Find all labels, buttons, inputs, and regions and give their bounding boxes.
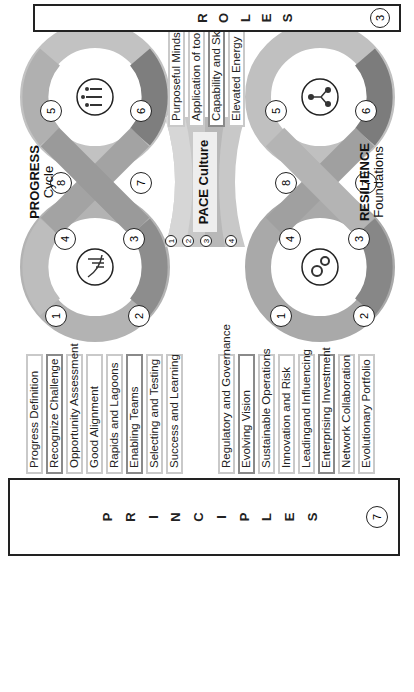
step-badge: 6 xyxy=(355,100,377,122)
principles-count-badge: 7 xyxy=(366,506,388,528)
progress-principles-list: Progress DefinitionRecognize ChallengeOp… xyxy=(26,354,183,474)
title-letter: S xyxy=(305,513,320,522)
principles-box: PRINCIPLES 7 xyxy=(8,478,400,556)
step-badge: 3 xyxy=(123,228,145,250)
step-badge: 4 xyxy=(54,228,76,250)
title-letter: C xyxy=(191,512,206,521)
roles-box: ROLES 3 xyxy=(33,4,401,32)
list-item: Evolutionary Portfolio xyxy=(358,354,375,474)
step-badge: 2 xyxy=(353,305,375,327)
list-item: Success and Learning xyxy=(166,354,183,474)
step-badge: 7 xyxy=(130,172,152,194)
list-item: Enterprising Investment xyxy=(318,354,335,474)
title-letter: N xyxy=(168,512,183,521)
title-letter: E xyxy=(259,14,274,23)
roles-count-badge: 3 xyxy=(370,8,390,28)
principles-title: PRINCIPLES xyxy=(100,502,320,532)
roles-title: ROLES xyxy=(195,6,295,30)
step-badge: 5 xyxy=(265,100,287,122)
step-badge: 8 xyxy=(275,172,297,194)
title-letter: I xyxy=(214,515,229,519)
list-item: Evolving Vision xyxy=(238,354,255,474)
list-item: Opportunity Assessment xyxy=(66,354,83,474)
step-badge: 5 xyxy=(40,100,62,122)
list-item: Enabling Teams xyxy=(126,354,143,474)
pace-culture-title: PACE Culture xyxy=(197,132,211,232)
title-letter: O xyxy=(216,13,231,23)
pace-diagram: PRINCIPLES 7 Progress DefinitionRecogniz… xyxy=(0,0,414,692)
list-item: Sustainable Operations xyxy=(258,354,275,474)
title-letter: S xyxy=(280,14,295,23)
step-badge: 1 xyxy=(165,235,177,247)
step-badge: 2 xyxy=(128,305,150,327)
list-item: Regulatory and Governance xyxy=(218,354,235,474)
list-item: Good Alignment xyxy=(86,354,103,474)
title-letter: P xyxy=(237,513,252,522)
chart-growth-icon xyxy=(77,249,113,285)
list-item: Network Collaboration xyxy=(338,354,355,474)
resilience-foundations-title: RESILIENCE Foundations xyxy=(358,127,386,237)
title-letter: L xyxy=(238,14,253,22)
list-item: Recognize Challenge xyxy=(46,354,63,474)
step-badge: 4 xyxy=(279,228,301,250)
list-item: Leadingand Influencing xyxy=(298,354,315,474)
resilience-principles-list: Regulatory and GovernanceEvolving Vision… xyxy=(218,354,375,474)
list-item: Progress Definition xyxy=(26,354,43,474)
title-letter: P xyxy=(100,513,115,522)
step-badge: 6 xyxy=(130,100,152,122)
step-badge: 1 xyxy=(45,305,67,327)
title-letter: R xyxy=(195,13,210,22)
step-badge: 1 xyxy=(270,305,292,327)
title-letter: E xyxy=(282,513,297,522)
title-letter: L xyxy=(259,513,274,521)
progress-cycle-title: PROGRESS Cycle xyxy=(28,142,56,222)
list-item: Selecting and Testing xyxy=(146,354,163,474)
step-badge: 2 xyxy=(182,235,194,247)
list-item: Innovation and Risk xyxy=(278,354,295,474)
list-item: Rapids and Lagoons xyxy=(106,354,123,474)
title-letter: I xyxy=(146,515,161,519)
title-letter: R xyxy=(123,512,138,521)
step-badge: 3 xyxy=(200,235,212,247)
